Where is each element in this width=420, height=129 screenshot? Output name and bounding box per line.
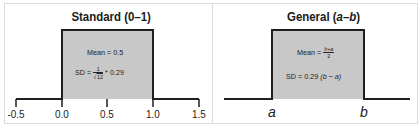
tick-label: -0.5 [7,108,24,120]
upper-bound-label: b [360,104,368,120]
tick-label: 0.5 [100,108,114,120]
sd-annotation: SD = 1 √12 * 0.29 [75,66,124,80]
sd-prefix: SD = 0.29 [286,72,318,81]
sd-fraction: 1 √12 [93,66,103,80]
sd-prefix: SD = [75,68,91,77]
mean-annotation: Mean = b+a 2 [297,46,334,59]
sd-annotation: SD = 0.29 (b − a) [286,72,341,81]
chart-title: Standard (0–1) [71,9,150,24]
standard-uniform-panel: Standard (0–1) Mean = 0.5 SD = 1 √12 * 0… [0,0,212,129]
fraction-numerator: b+a [323,46,334,53]
density-area [62,30,153,99]
tick-label: 0.0 [55,108,69,120]
fraction-denominator: 2 [323,53,334,59]
mean-fraction: b+a 2 [323,46,334,59]
tick-label: 1.0 [146,108,160,120]
chart-title: General (a–b) [287,9,360,24]
tick-label: 1.5 [192,108,206,120]
fraction-denominator: √12 [93,73,103,80]
mean-prefix: Mean = [297,48,321,57]
general-uniform-panel: General (a–b) Mean = b+a 2 SD = 0.29 (b … [210,0,420,129]
mean-annotation: Mean = 0.5 [87,48,123,57]
lower-bound-label: a [268,104,276,120]
density-area [272,30,364,99]
sd-suffix: * 0.29 [105,68,124,77]
fraction-numerator: 1 [93,66,103,73]
sd-range: (b − a) [320,72,341,81]
